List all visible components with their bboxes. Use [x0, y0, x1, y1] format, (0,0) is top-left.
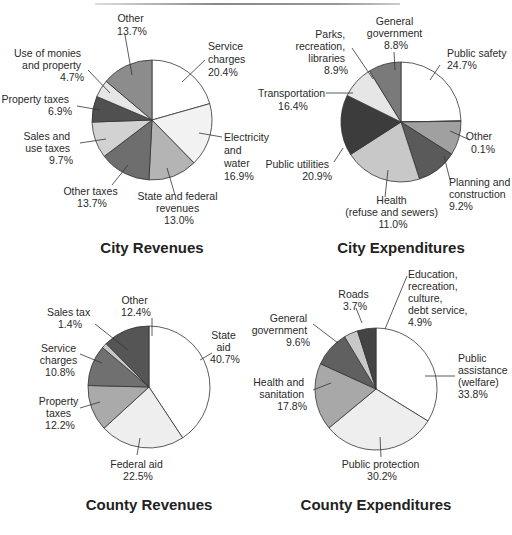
- label-state-federal: State and federal revenues 13.0%: [138, 190, 221, 226]
- pie-slice: [401, 62, 461, 122]
- label-general-government: General government 9.6%: [252, 312, 310, 348]
- label-federal-aid: Federal aid 22.5%: [110, 458, 165, 482]
- title-county-expenditures: County Expenditures: [301, 496, 452, 513]
- label-planning-construction: Planning and construction 9.2%: [449, 176, 512, 212]
- county-expenditures-pie: [315, 328, 437, 450]
- pie-charts-figure: Other 13.7% Service charges 20.4% Use of…: [0, 0, 512, 535]
- title-county-revenues: County Revenues: [86, 496, 213, 513]
- label-sales-use-taxes: Sales and use taxes 9.7%: [23, 130, 73, 166]
- label-public-safety: Public safety 24.7%: [447, 47, 509, 71]
- label-other: Other 13.7%: [117, 12, 147, 37]
- label-property-taxes: Property taxes 6.9%: [1, 93, 72, 117]
- label-public-protection: Public protection 30.2%: [342, 458, 423, 482]
- city-revenues-pie: [92, 60, 212, 180]
- label-state-aid: State aid 40.7%: [210, 329, 240, 365]
- label-property-taxes: Property taxes 12.2%: [39, 395, 82, 431]
- label-transportation: Transportation 16.4%: [258, 87, 328, 112]
- label-parks: Parks, recreation, libraries 8.9%: [295, 28, 348, 76]
- label-general-government: General government 8.8%: [367, 15, 425, 51]
- label-service-charges: Service charges 20.4%: [208, 40, 248, 78]
- label-sales-tax: Sales tax 1.4%: [47, 306, 93, 330]
- title-city-revenues: City Revenues: [100, 239, 203, 256]
- label-other: Other 12.4%: [121, 294, 151, 318]
- label-roads: Roads 3.7%: [338, 288, 371, 312]
- county-revenues-pie: [88, 326, 210, 448]
- label-use-of-monies: Use of monies and property 4.7%: [14, 47, 84, 83]
- title-city-expenditures: City Expenditures: [337, 239, 465, 256]
- label-health: Health (refuse and sewers) 11.0%: [345, 194, 441, 230]
- label-public-assistance: Public assistance (welfare) 33.8%: [458, 352, 511, 400]
- label-electricity-water: Electricity and water 16.9%: [223, 131, 272, 182]
- label-health-sanitation: Health and sanitation 17.8%: [253, 376, 307, 412]
- label-education: Education, recreation, culture, debt ser…: [408, 268, 470, 328]
- city-expenditures-pie: [341, 62, 461, 182]
- label-other-taxes: Other taxes 13.7%: [63, 185, 120, 209]
- label-other: Other 0.1%: [466, 130, 495, 155]
- label-public-utilities: Public utilities 20.9%: [265, 158, 332, 182]
- label-service-charges: Service charges 10.8%: [40, 342, 80, 378]
